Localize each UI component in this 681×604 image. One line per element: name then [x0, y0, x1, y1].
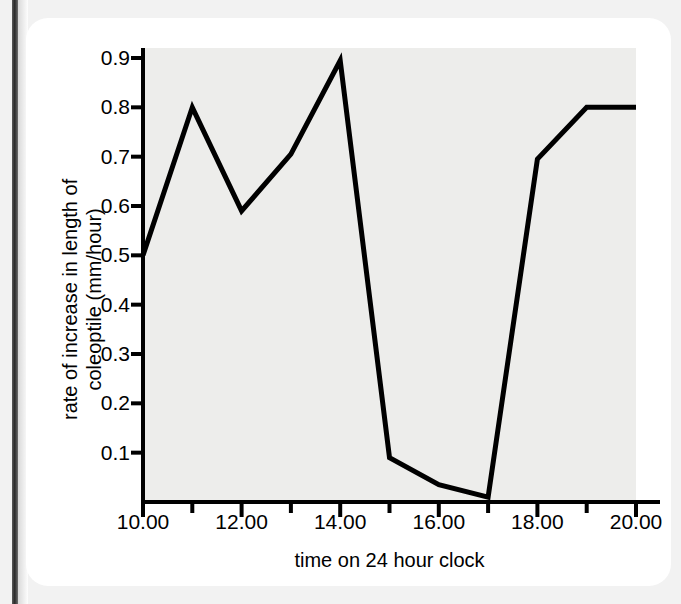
x-axis-tick-label: 12.00 — [197, 511, 287, 532]
x-axis-tick-label: 16.00 — [394, 511, 484, 532]
y-axis-title-line-2: coleoptile (mm/hour) — [82, 99, 106, 499]
x-axis-tick-label: 18.00 — [492, 511, 582, 532]
y-axis-title-line-1: rate of increase in length of — [58, 99, 82, 499]
page-canvas: 0.90.80.70.60.50.40.30.20.1 10.0012.0014… — [0, 0, 681, 604]
line-chart: 0.90.80.70.60.50.40.30.20.1 10.0012.0014… — [0, 0, 681, 604]
x-axis-title: time on 24 hour clock — [143, 549, 636, 572]
x-axis-tick-label: 14.00 — [295, 511, 385, 532]
x-axis-tick-labels: 10.0012.0014.0016.0018.0020.00 — [0, 511, 681, 545]
y-axis-tick-label: 0.9 — [86, 47, 130, 68]
data-series-line — [143, 60, 636, 497]
x-axis-tick-label: 20.00 — [591, 511, 681, 532]
y-axis-title: rate of increase in length of coleoptile… — [58, 99, 107, 499]
x-axis-tick-label: 10.00 — [98, 511, 188, 532]
